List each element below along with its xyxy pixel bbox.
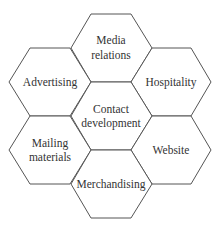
hex-label-line: Mailing <box>32 137 69 150</box>
hex-label-line: materials <box>29 151 72 163</box>
hexagon-diagram: Media relations Advertising Hospitality … <box>0 0 221 231</box>
hex-label-line: Advertising <box>23 76 78 89</box>
hex-label-line: Media <box>96 34 125 46</box>
hex-label-line: Hospitality <box>145 76 196 89</box>
hex-label-line: development <box>81 117 141 130</box>
hex-label-line: Website <box>153 144 190 156</box>
hex-label-line: Contact <box>93 103 130 115</box>
hex-label-line: relations <box>91 49 131 61</box>
hex-label-line: Merchandising <box>77 178 146 191</box>
